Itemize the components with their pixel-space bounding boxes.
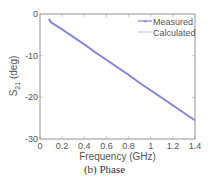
ytick-label: -10 [25,51,38,61]
legend-measured-marker-icon: + [143,18,147,25]
y-axis-label-unit: (deg) [8,56,19,82]
y-axis-label: S21 (deg) [8,56,21,97]
xtick-label: 0.4 [78,141,91,151]
legend-measured-label: Measured [153,17,193,27]
xtick-label: 0.2 [56,141,69,151]
xtick-label: 0.6 [100,141,113,151]
xtick-label: 1 [148,141,153,151]
xtick-label: 1.2 [167,141,180,151]
xtick-label: 1.4 [189,141,202,151]
ytick-label: -30 [25,134,38,144]
xtick-label: 0 [37,141,42,151]
y-axis-label-sub: 21 [14,82,21,90]
y-ticks [40,56,195,98]
figure-caption: (b) Phase [0,163,209,175]
legend-calculated-label: Calculated [153,28,196,38]
ytick-label: -20 [25,92,38,102]
phase-chart: + Measured Calculated 0 -10 -20 -30 0 0.… [0,0,209,183]
x-axis-label: Frequency (GHz) [79,151,156,162]
svg-text:S21 (deg): S21 (deg) [8,56,21,97]
xtick-label: 0.8 [122,141,135,151]
legend: + Measured Calculated [138,17,196,38]
ytick-label: 0 [33,9,38,19]
